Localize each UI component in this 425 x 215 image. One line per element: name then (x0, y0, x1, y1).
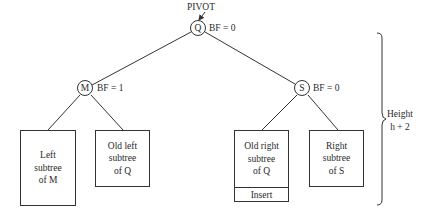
edge-m-right (91, 95, 123, 130)
node-s-balance-factor: BF = 0 (313, 84, 339, 94)
height-label-line2: h + 2 (387, 121, 413, 134)
edge-m-left (48, 95, 80, 130)
subtree-text: of S (329, 165, 345, 178)
edge-q-s (205, 32, 295, 84)
node-m-balance-factor: BF = 1 (97, 84, 123, 94)
pivot-label: PIVOT (187, 3, 215, 13)
node-s-label: S (299, 83, 304, 93)
subtree-text: of M (39, 174, 58, 187)
node-m-label: M (81, 83, 89, 93)
height-label-line1: Height (387, 108, 413, 121)
subtree-text: of Q (114, 165, 131, 178)
subtree-old-left-of-q: Old left subtree of Q (95, 130, 150, 187)
pivot-arrow (199, 12, 205, 20)
subtree-text: of Q (253, 165, 270, 178)
node-q-label: Q (195, 23, 202, 33)
edge-q-m (92, 32, 191, 85)
node-m: M (77, 80, 93, 96)
edge-s-right (308, 95, 338, 130)
height-annotation: Height h + 2 (387, 108, 413, 133)
subtree-right-of-s: Right subtree of S (309, 130, 364, 187)
edge-s-left (262, 95, 297, 130)
subtree-text: subtree (248, 153, 275, 166)
subtree-text: subtree (323, 152, 350, 165)
subtree-text: subtree (34, 162, 61, 175)
subtree-text: subtree (109, 152, 136, 165)
node-s: S (294, 80, 310, 96)
height-brace (377, 33, 386, 205)
subtree-left-of-m: Left subtree of M (20, 130, 76, 206)
insert-marker: Insert (234, 187, 289, 202)
subtree-text: Old left (108, 140, 137, 153)
subtree-text: Old right (244, 140, 279, 153)
subtree-old-right-of-q: Old right subtree of Q (234, 130, 289, 188)
subtree-text: Right (326, 140, 347, 153)
subtree-text: Left (40, 149, 56, 162)
node-q-balance-factor: BF = 0 (209, 24, 235, 34)
node-q: Q (190, 20, 206, 36)
